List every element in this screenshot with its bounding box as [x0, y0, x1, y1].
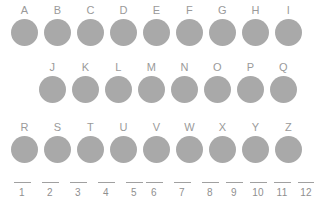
- circle-icon[interactable]: [44, 19, 71, 46]
- tick-line: [250, 182, 267, 183]
- tick-label: 7: [179, 188, 185, 198]
- letter-cell[interactable]: Z: [272, 122, 305, 163]
- circle-icon[interactable]: [110, 136, 137, 163]
- circle-icon[interactable]: [72, 76, 99, 103]
- letter-label: C: [86, 5, 94, 17]
- ruler-tick[interactable]: 6: [140, 182, 168, 198]
- letter-cell[interactable]: W: [173, 122, 206, 163]
- letter-cell[interactable]: R: [8, 122, 41, 163]
- letter-cell[interactable]: P: [234, 62, 267, 103]
- row-3: RSTUVWXYZ: [8, 122, 305, 163]
- letter-cell[interactable]: X: [206, 122, 239, 163]
- ruler-group-2: 678: [140, 182, 224, 198]
- circle-icon[interactable]: [11, 136, 38, 163]
- letter-cell[interactable]: D: [107, 5, 140, 46]
- letter-label: B: [54, 5, 62, 17]
- circle-icon[interactable]: [143, 19, 170, 46]
- circle-icon[interactable]: [204, 76, 231, 103]
- tick-label: 11: [277, 188, 288, 198]
- tick-label: 3: [75, 188, 81, 198]
- letter-label: R: [20, 122, 28, 134]
- tick-line: [226, 182, 243, 183]
- letter-label: F: [186, 5, 193, 17]
- letter-label: W: [184, 122, 195, 134]
- circle-icon[interactable]: [44, 136, 71, 163]
- circle-icon[interactable]: [275, 19, 302, 46]
- letter-cell[interactable]: J: [36, 62, 69, 103]
- ruler-tick[interactable]: 11: [270, 182, 294, 198]
- tick-label: 5: [131, 188, 137, 198]
- letter-cell[interactable]: G: [206, 5, 239, 46]
- circle-icon[interactable]: [110, 19, 137, 46]
- worksheet-canvas: ABCDEFGHIJKLMNOPQRSTUVWXYZ 1234567891011…: [0, 0, 314, 215]
- circle-icon[interactable]: [176, 136, 203, 163]
- tick-line: [14, 182, 31, 183]
- circle-icon[interactable]: [275, 136, 302, 163]
- circle-icon[interactable]: [77, 136, 104, 163]
- letter-cell[interactable]: M: [135, 62, 168, 103]
- tick-line: [298, 182, 315, 183]
- letter-cell[interactable]: A: [8, 5, 41, 46]
- circle-icon[interactable]: [143, 136, 170, 163]
- letter-cell[interactable]: H: [239, 5, 272, 46]
- circle-icon[interactable]: [176, 19, 203, 46]
- letter-label: G: [218, 5, 227, 17]
- letter-cell[interactable]: E: [140, 5, 173, 46]
- tick-label: 9: [231, 188, 237, 198]
- tick-label: 1: [19, 188, 25, 198]
- letter-cell[interactable]: O: [201, 62, 234, 103]
- circle-icon[interactable]: [242, 136, 269, 163]
- letter-cell[interactable]: K: [69, 62, 102, 103]
- letter-cell[interactable]: Q: [267, 62, 300, 103]
- letter-cell[interactable]: B: [41, 5, 74, 46]
- letter-label: Q: [279, 62, 288, 74]
- circle-icon[interactable]: [209, 19, 236, 46]
- circle-icon[interactable]: [209, 136, 236, 163]
- ruler-tick[interactable]: 10: [246, 182, 270, 198]
- ruler-tick[interactable]: 9: [222, 182, 246, 198]
- circle-icon[interactable]: [77, 19, 104, 46]
- circle-icon[interactable]: [105, 76, 132, 103]
- bottom-ruler: 123456789101112: [0, 182, 314, 208]
- circle-icon[interactable]: [171, 76, 198, 103]
- letter-cell[interactable]: I: [272, 5, 305, 46]
- circle-icon[interactable]: [242, 19, 269, 46]
- ruler-tick[interactable]: 2: [36, 182, 64, 198]
- letter-label: U: [119, 122, 127, 134]
- letter-label: K: [82, 62, 90, 74]
- ruler-tick[interactable]: 1: [8, 182, 36, 198]
- circle-icon[interactable]: [39, 76, 66, 103]
- circle-icon[interactable]: [11, 19, 38, 46]
- letter-label: O: [213, 62, 222, 74]
- letter-cell[interactable]: V: [140, 122, 173, 163]
- tick-label: 8: [207, 188, 213, 198]
- tick-line: [174, 182, 191, 183]
- letter-cell[interactable]: T: [74, 122, 107, 163]
- ruler-tick[interactable]: 8: [196, 182, 224, 198]
- ruler-tick[interactable]: 3: [64, 182, 92, 198]
- letter-cell[interactable]: U: [107, 122, 140, 163]
- letter-cell[interactable]: L: [102, 62, 135, 103]
- letter-cell[interactable]: C: [74, 5, 107, 46]
- tick-line: [42, 182, 59, 183]
- ruler-group-3: 9101112: [222, 182, 314, 198]
- ruler-tick[interactable]: 12: [294, 182, 314, 198]
- circle-icon[interactable]: [270, 76, 297, 103]
- tick-label: 6: [151, 188, 157, 198]
- letter-label: N: [180, 62, 188, 74]
- tick-line: [98, 182, 115, 183]
- circle-icon[interactable]: [237, 76, 264, 103]
- letter-label: S: [54, 122, 62, 134]
- letter-cell[interactable]: N: [168, 62, 201, 103]
- letter-label: D: [119, 5, 127, 17]
- tick-line: [70, 182, 87, 183]
- ruler-tick[interactable]: 7: [168, 182, 196, 198]
- ruler-tick[interactable]: 4: [92, 182, 120, 198]
- letter-cell[interactable]: F: [173, 5, 206, 46]
- letter-cell[interactable]: Y: [239, 122, 272, 163]
- letter-label: E: [153, 5, 161, 17]
- letter-label: P: [247, 62, 255, 74]
- circle-icon[interactable]: [138, 76, 165, 103]
- letter-cell[interactable]: S: [41, 122, 74, 163]
- letter-label: Y: [252, 122, 260, 134]
